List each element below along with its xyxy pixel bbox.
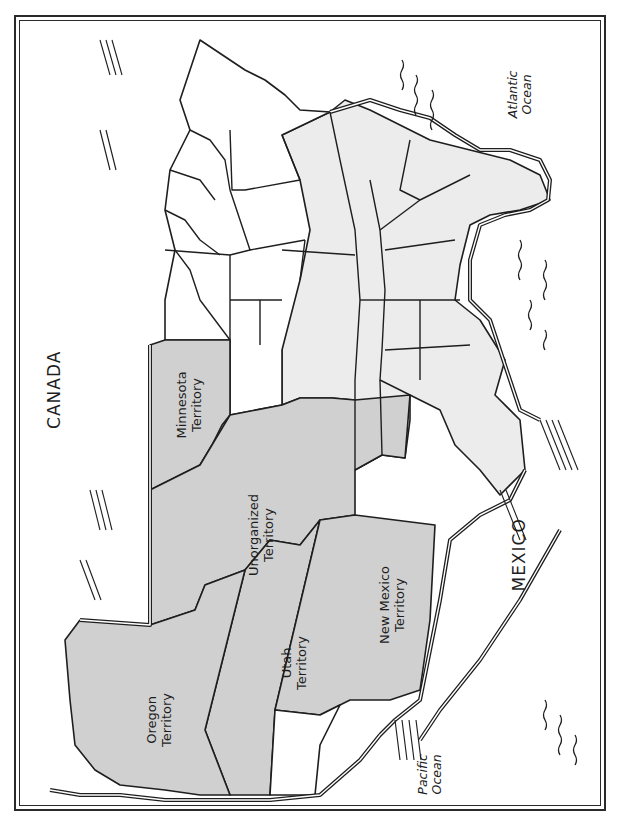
region-california bbox=[270, 705, 340, 795]
label-unorganized-territory: Unorganized Territory bbox=[247, 485, 277, 585]
canada-border bbox=[80, 345, 150, 625]
label-mexico: MEXICO bbox=[510, 510, 530, 600]
canada-border-inner bbox=[80, 345, 150, 625]
label-atlantic-ocean: Atlantic Ocean bbox=[506, 54, 535, 134]
label-new-mexico-territory: New Mexico Territory bbox=[378, 550, 408, 660]
baja-coast-inner bbox=[420, 530, 560, 740]
label-canada: CANADA bbox=[45, 345, 65, 435]
label-utah-territory: Utah Territory bbox=[280, 623, 310, 703]
label-minnesota-territory: Minnesota Territory bbox=[175, 360, 205, 450]
label-oregon-territory: Oregon Territory bbox=[145, 680, 175, 760]
label-pacific-ocean: Pacific Ocean bbox=[416, 734, 445, 814]
